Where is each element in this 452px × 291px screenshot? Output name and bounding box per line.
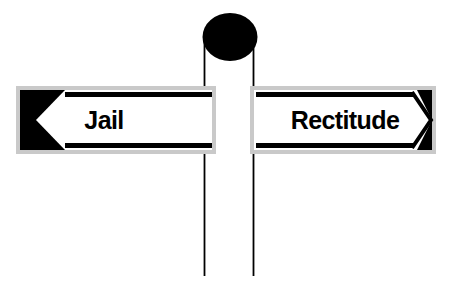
illustration-canvas: Jail Rectitude — [0, 0, 452, 291]
left-sign-label: Jail — [84, 106, 123, 134]
left-sign-bottom-rule — [65, 143, 212, 148]
left-sign[interactable]: Jail — [16, 86, 216, 154]
signpost-illustration: Jail Rectitude — [0, 0, 452, 291]
post-finial-ellipse — [203, 13, 258, 61]
right-sign-label: Rectitude — [291, 106, 400, 134]
right-sign[interactable]: Rectitude — [250, 86, 436, 154]
right-sign-bottom-rule — [256, 143, 414, 148]
left-sign-top-rule — [65, 92, 212, 97]
right-sign-top-rule — [256, 92, 414, 97]
